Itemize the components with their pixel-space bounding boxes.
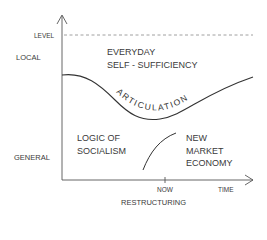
articulation-curve	[62, 75, 253, 120]
local-label: LOCAL	[16, 53, 41, 63]
time-label: TIME	[218, 185, 234, 195]
region-top-line2: SELF - SUFFICIENCY	[107, 60, 198, 70]
restructuring-caption: RESTRUCTURING	[121, 198, 186, 208]
market-line2: MARKET	[186, 146, 224, 156]
articulation-label: ARTICULATION	[115, 86, 191, 112]
socialism-line2: SOCIALISM	[77, 146, 126, 156]
level-label: LEVEL	[34, 31, 54, 41]
general-label: GENERAL	[14, 153, 50, 163]
socialism-line1: LOGIC OF	[77, 133, 120, 143]
market-line1: NEW	[186, 133, 207, 143]
market-curve	[143, 133, 176, 170]
now-label: NOW	[157, 185, 173, 195]
market-line3: ECONOMY	[186, 158, 233, 168]
region-top-line1: EVERYDAY	[107, 47, 155, 57]
